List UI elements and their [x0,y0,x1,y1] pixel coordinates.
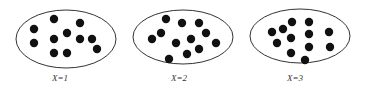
dot [172,39,180,47]
dot [195,19,203,27]
dot [162,15,170,23]
dot [63,49,71,57]
dot [183,50,191,58]
dot [288,18,296,26]
dot [287,34,295,42]
dot [301,56,309,64]
set-panel-3: X=3 [250,9,350,83]
dot [326,43,334,51]
dot [76,19,84,27]
dot [202,29,210,37]
dot [187,35,195,43]
panel-label: X=2 [170,73,188,83]
dot-sets-diagram: X=1X=2X=3 [0,0,368,92]
dot [305,30,313,38]
set-panel-2: X=2 [133,10,233,83]
dot [165,55,173,63]
dot [148,35,156,43]
dot [50,35,58,43]
dot [268,28,276,36]
dot [30,39,38,47]
dot [178,19,186,27]
panel-label: X=1 [51,73,68,83]
dot [273,39,281,47]
dot [88,35,96,43]
set-ellipse [250,9,350,63]
dot [305,18,313,26]
dot [157,29,165,37]
dot [195,45,203,53]
set-ellipse [133,10,233,64]
set-panel-1: X=1 [16,10,116,83]
dot [325,28,333,36]
dot [212,39,220,47]
dot [30,25,38,33]
dot [50,49,58,57]
set-ellipse [16,10,116,68]
dot [76,35,84,43]
dot [63,29,71,37]
dot [305,43,313,51]
dot [287,49,295,57]
dot [93,45,101,53]
panel-label: X=3 [286,73,304,83]
dot [50,15,58,23]
dot [279,25,287,33]
